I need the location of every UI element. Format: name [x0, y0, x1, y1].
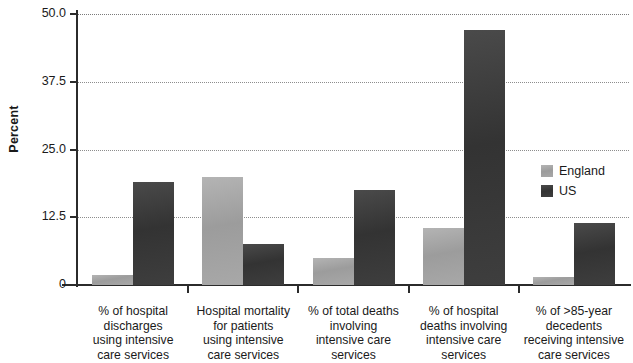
bar-england	[423, 228, 464, 285]
legend-item-england[interactable]: England	[541, 161, 605, 181]
y-axis-title: Percent	[7, 89, 21, 169]
legend-label-us: US	[559, 185, 576, 198]
x-axis-tick-mark	[518, 286, 520, 293]
y-axis-tick-mark	[70, 13, 78, 15]
bar-us	[464, 30, 505, 285]
chart-legend: England US	[541, 161, 605, 201]
y-axis-tick-mark	[70, 216, 78, 218]
bar-us	[133, 182, 174, 285]
x-axis-tick-mark	[408, 286, 410, 293]
y-axis-tick-label: 37.5	[42, 75, 66, 88]
bar-us	[243, 244, 284, 285]
bar-chart: Percent 012.525.037.550.0 % of hospital …	[0, 0, 633, 363]
y-axis-tick-label: 50.0	[42, 7, 66, 20]
x-axis-category-label: % of hospital discharges using intensive…	[72, 304, 194, 362]
bar-us	[574, 223, 615, 285]
bar-england	[92, 275, 133, 285]
legend-swatch-icon-us	[541, 185, 553, 197]
x-axis-category-label: Hospital mortality for patients using in…	[182, 304, 304, 362]
bar-england	[202, 177, 243, 285]
gridline	[78, 14, 629, 15]
gridline	[78, 82, 629, 83]
y-axis-tick-label: 0	[59, 278, 66, 291]
x-axis-tick-mark	[187, 286, 189, 293]
y-axis-tick-mark	[70, 149, 78, 151]
x-axis-category-label: % of hospital deaths involving intensive…	[403, 304, 525, 362]
bar-england	[533, 277, 574, 285]
gridline	[78, 150, 629, 151]
legend-label-england: England	[559, 165, 605, 178]
legend-item-us[interactable]: US	[541, 181, 605, 201]
y-axis-tick-label: 12.5	[42, 210, 66, 223]
x-axis-category-label: % of >85-year decedents receiving intens…	[513, 304, 633, 362]
bar-england	[313, 258, 354, 285]
y-axis-tick-mark	[70, 284, 78, 286]
legend-swatch-icon-england	[541, 165, 553, 177]
y-axis-tick-label: 25.0	[42, 143, 66, 156]
x-axis-category-label: % of total deaths involving intensive ca…	[292, 304, 414, 362]
bar-us	[354, 190, 395, 285]
y-axis-tick-mark	[70, 81, 78, 83]
x-axis-tick-mark	[297, 286, 299, 293]
plot-area	[78, 14, 629, 285]
